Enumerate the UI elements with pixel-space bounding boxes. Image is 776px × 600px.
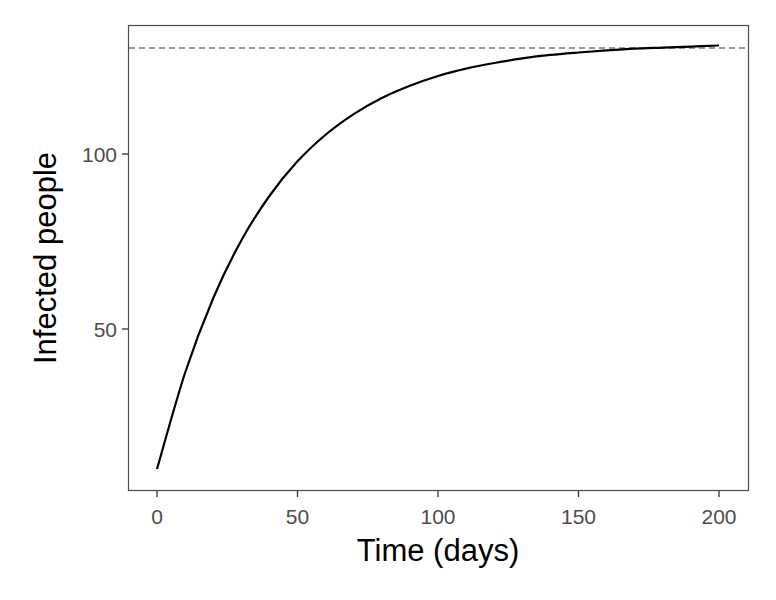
chart: 050100150200 50100 Time (days) Infected … xyxy=(0,0,776,600)
y-tick-label: 100 xyxy=(82,143,117,166)
x-tick-label: 100 xyxy=(420,505,455,528)
y-axis-title: Infected people xyxy=(28,152,63,364)
y-axis: 50100 xyxy=(82,143,128,341)
series-line-0 xyxy=(157,46,719,470)
x-tick-label: 200 xyxy=(701,505,736,528)
y-tick-label: 50 xyxy=(94,318,117,341)
plot-area xyxy=(129,46,748,470)
x-axis: 050100150200 xyxy=(151,491,736,528)
x-tick-label: 0 xyxy=(151,505,163,528)
x-axis-title: Time (days) xyxy=(357,533,519,568)
x-tick-label: 50 xyxy=(286,505,309,528)
plot-panel-border xyxy=(129,26,749,491)
x-tick-label: 150 xyxy=(561,505,596,528)
